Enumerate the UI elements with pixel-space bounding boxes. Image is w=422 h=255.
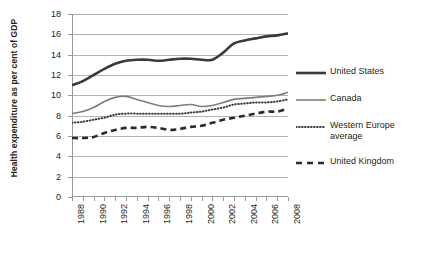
x-tick <box>234 197 235 201</box>
legend-label: United States <box>330 66 384 77</box>
legend-label: Western Europe average <box>330 120 420 142</box>
legend-item[interactable]: United States <box>296 66 420 79</box>
x-tick <box>83 197 84 201</box>
x-tick <box>104 197 105 201</box>
x-tick <box>288 197 289 201</box>
y-tick-label: 6 <box>56 131 61 141</box>
legend-swatch-icon <box>296 121 326 133</box>
x-tick <box>169 197 170 201</box>
x-tick <box>72 197 73 201</box>
x-tick <box>277 197 278 201</box>
x-tick <box>137 197 138 201</box>
y-tick-label: 16 <box>51 29 61 39</box>
x-tick <box>245 197 246 201</box>
x-tick-label: 1988 <box>76 204 86 224</box>
y-tick-label: 12 <box>51 70 61 80</box>
legend-swatch-icon <box>296 67 326 79</box>
legend-label: Canada <box>330 93 362 104</box>
series-line <box>72 33 288 85</box>
legend-swatch-icon <box>296 94 326 106</box>
x-tick <box>126 197 127 201</box>
y-tick-label: 8 <box>56 111 61 121</box>
x-tick-label: 2002 <box>227 204 237 224</box>
x-tick <box>266 197 267 201</box>
x-tick-label: 1994 <box>141 204 151 224</box>
chart-figure: Health expenditure as per cent of GDP 02… <box>0 0 422 255</box>
x-tick-label: 2006 <box>270 204 280 224</box>
y-axis-title: Health expenditure as per cent of GDP <box>9 0 19 198</box>
x-tick <box>158 197 159 201</box>
plot-area: 024681012141618 198819901992199419961998… <box>72 14 288 197</box>
y-tick-label: 4 <box>56 151 61 161</box>
y-tick-label: 10 <box>51 90 61 100</box>
legend-item[interactable]: Canada <box>296 93 420 106</box>
x-tick-label: 2004 <box>249 204 259 224</box>
series-lines <box>72 14 288 197</box>
x-tick <box>212 197 213 201</box>
x-tick <box>180 197 181 201</box>
x-tick-label: 2008 <box>292 204 302 224</box>
y-tick-label: 0 <box>56 192 61 202</box>
series-line <box>72 99 288 122</box>
x-tick-label: 2000 <box>206 204 216 224</box>
x-tick-label: 1996 <box>162 204 172 224</box>
legend-swatch-icon <box>296 157 326 169</box>
y-tick-label: 14 <box>51 50 61 60</box>
x-tick <box>94 197 95 201</box>
x-tick <box>148 197 149 201</box>
x-tick <box>191 197 192 201</box>
x-tick-label: 1990 <box>98 204 108 224</box>
legend-item[interactable]: United Kingdom <box>296 156 420 169</box>
x-tick <box>256 197 257 201</box>
legend-label: United Kingdom <box>330 156 394 167</box>
x-tick-label: 1992 <box>119 204 129 224</box>
y-tick-label: 2 <box>56 172 61 182</box>
x-tick <box>202 197 203 201</box>
y-tick-label: 18 <box>51 9 61 19</box>
legend-item[interactable]: Western Europe average <box>296 120 420 142</box>
x-tick <box>223 197 224 201</box>
x-tick <box>115 197 116 201</box>
x-tick-label: 1998 <box>184 204 194 224</box>
legend: United StatesCanadaWestern Europe averag… <box>296 66 420 183</box>
